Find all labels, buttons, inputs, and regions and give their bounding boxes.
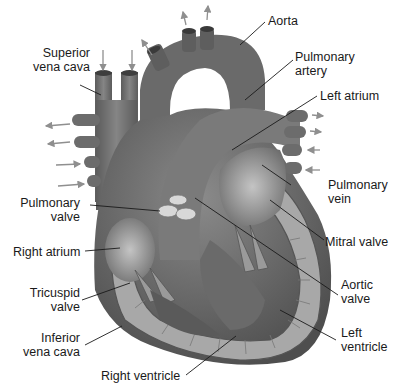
label-text: Superior (14, 46, 90, 60)
label-aorta: Aorta (268, 14, 298, 28)
label-mitral-valve: Mitral valve (325, 235, 388, 249)
label-text: Inferior (4, 331, 80, 345)
label-text: valve (4, 300, 80, 314)
label-superior-vena-cava: Superior vena cava (14, 46, 90, 74)
label-text: Aorta (268, 14, 298, 28)
label-right-ventricle: Right ventricle (101, 369, 180, 383)
label-text: valve (4, 210, 80, 224)
label-text: ventricle (341, 340, 388, 354)
label-text: artery (295, 64, 355, 78)
label-aortic-valve: Aortic valve (341, 278, 373, 306)
label-left-ventricle: Left ventricle (341, 326, 388, 354)
label-text: Pulmonary (4, 196, 80, 210)
label-text: valve (341, 292, 373, 306)
label-pulmonary-artery: Pulmonary artery (295, 50, 355, 78)
label-right-atrium: Right atrium (13, 245, 80, 259)
label-text: Pulmonary (295, 50, 355, 64)
label-text: Right atrium (13, 245, 80, 259)
label-text: Tricuspid (4, 286, 80, 300)
label-text: vena cava (14, 60, 90, 74)
label-tricuspid-valve: Tricuspid valve (4, 286, 80, 314)
label-text: Left atrium (320, 89, 379, 103)
right-atrium-chamber (105, 218, 155, 282)
label-text: Aortic (341, 278, 373, 292)
label-text: vena cava (4, 345, 80, 359)
label-text: Pulmonary (328, 178, 388, 192)
label-text: Right ventricle (101, 369, 180, 383)
label-text: Left (341, 326, 388, 340)
label-pulmonary-vein: Pulmonary vein (328, 178, 388, 206)
label-text: vein (328, 192, 388, 206)
label-inferior-vena-cava: Inferior vena cava (4, 331, 80, 359)
label-pulmonary-valve: Pulmonary valve (4, 196, 80, 224)
label-left-atrium: Left atrium (320, 89, 379, 103)
label-text: Mitral valve (325, 235, 388, 249)
